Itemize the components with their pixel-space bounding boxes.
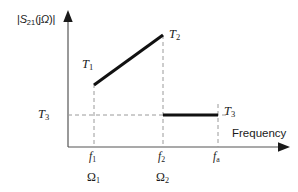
annotation-t2: T2 <box>169 28 180 41</box>
annotation-t3-right: T3 <box>224 105 235 118</box>
y-axis <box>63 10 72 147</box>
signal-response-figure: |S21(jΩ)| Frequency T3 T1 T2 T3 f1 f2 fa… <box>0 0 298 192</box>
x-axis <box>68 142 290 152</box>
series-passband-slope <box>94 35 163 85</box>
y-axis-title: |S21(jΩ)| <box>17 14 55 26</box>
x-tick-label-f1: f1 <box>89 151 96 164</box>
annotation-t1: T1 <box>82 58 93 71</box>
x-sublabel-omega2: Ω2 <box>156 171 169 185</box>
x-sublabel-omega1: Ω1 <box>87 171 100 185</box>
x-axis-title: Frequency <box>232 128 286 140</box>
x-tick-label-fa: fa <box>213 151 220 164</box>
plot-canvas <box>0 0 298 192</box>
x-tick-label-f2: f2 <box>158 151 165 164</box>
y-tick-label-t3: T3 <box>38 108 49 121</box>
